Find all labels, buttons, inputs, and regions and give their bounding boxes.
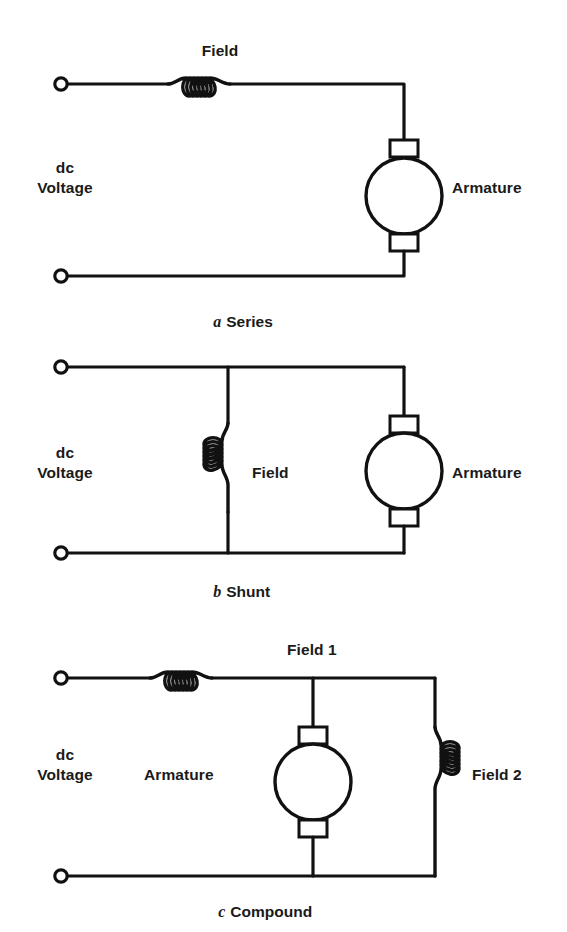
armature-top-brush xyxy=(390,416,418,433)
shunt-source-label-line1: dc xyxy=(20,443,110,462)
armature-top-brush xyxy=(390,140,418,157)
armature-bottom-brush xyxy=(299,820,327,837)
compound-field1-label: Field 1 xyxy=(287,640,337,659)
compound-caption-text: Compound xyxy=(230,903,312,920)
field-coil-inductor xyxy=(204,423,228,512)
top-rail-right-wire xyxy=(230,84,404,140)
positive-terminal[interactable] xyxy=(55,672,67,684)
armature-bottom-brush xyxy=(390,234,418,251)
field-coil-inductor xyxy=(168,78,230,96)
motor-circuits-figure: Field dc Voltage Armature aSeries dc Vol… xyxy=(0,0,567,932)
series-source-label-line1: dc xyxy=(20,158,110,177)
compound-source-label-line2: Voltage xyxy=(20,765,110,784)
series-source-label-line2: Voltage xyxy=(20,178,110,197)
positive-terminal[interactable] xyxy=(55,361,67,373)
series-caption-text: Series xyxy=(226,313,273,330)
shunt-caption-text: Shunt xyxy=(226,583,270,600)
bottom-rail-wire xyxy=(68,251,404,276)
armature-bottom-brush xyxy=(390,509,418,526)
shunt-caption-index: b xyxy=(213,583,226,600)
series-caption-index: a xyxy=(213,313,226,330)
field2-coil-inductor xyxy=(435,727,459,876)
compound-armature-label: Armature xyxy=(144,765,214,784)
series-field-label: Field xyxy=(185,41,255,60)
armature-circle xyxy=(275,744,351,820)
armature-circle xyxy=(366,433,442,509)
negative-terminal[interactable] xyxy=(55,270,67,282)
compound-source-label-line1: dc xyxy=(20,745,110,764)
compound-field2-label: Field 2 xyxy=(472,765,522,784)
shunt-field-label: Field xyxy=(252,463,289,482)
compound-caption: cCompound xyxy=(201,885,312,932)
armature-top-brush xyxy=(299,727,327,744)
negative-terminal[interactable] xyxy=(55,547,67,559)
negative-terminal[interactable] xyxy=(55,870,67,882)
series-armature-label: Armature xyxy=(452,178,522,197)
shunt-source-label-line2: Voltage xyxy=(20,463,110,482)
compound-caption-index: c xyxy=(218,903,230,920)
armature-circle xyxy=(366,158,442,234)
positive-terminal[interactable] xyxy=(55,78,67,90)
shunt-armature-label: Armature xyxy=(452,463,522,482)
field1-coil-inductor xyxy=(150,672,212,690)
